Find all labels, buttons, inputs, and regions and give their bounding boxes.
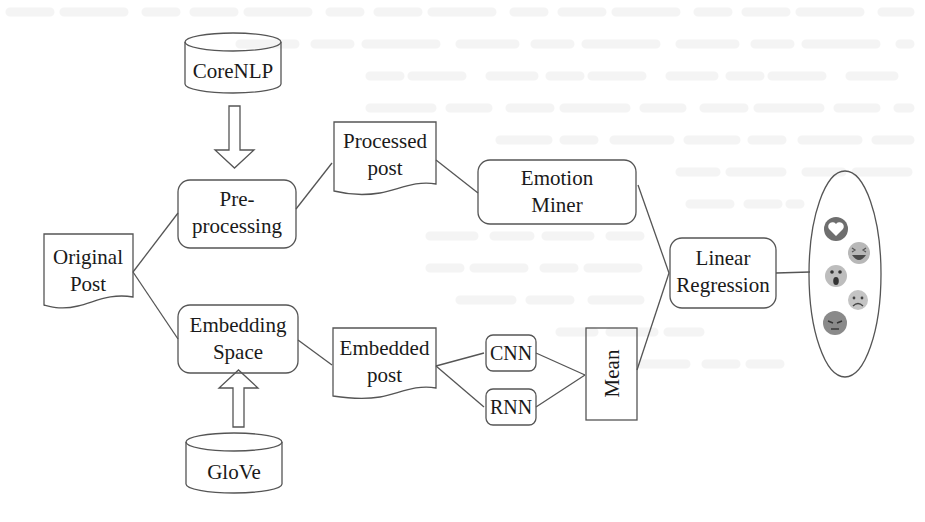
edge-processed-to-emotion: [436, 160, 478, 193]
edge-regression-to-reactions: [776, 272, 810, 273]
diagram-canvas: [0, 0, 925, 522]
preprocessing-label-line2: processing: [178, 214, 296, 239]
edge-rnn-to-mean: [536, 375, 585, 407]
arrow-down-icon: [215, 106, 254, 168]
rnn-label: RNN: [486, 395, 536, 420]
linear-regression-label-line1: Linear: [670, 246, 776, 271]
angry-reaction-icon: [823, 311, 847, 335]
embedding-space-label-line1: Embedding: [178, 313, 298, 338]
haha-reaction-icon: [848, 242, 870, 264]
reaction-icons: [823, 217, 870, 335]
emotion-miner-label-line2: Miner: [478, 193, 636, 218]
embedding-space-label-line2: Space: [178, 340, 298, 365]
preprocessing-label-line1: Pre-: [178, 187, 296, 212]
sad-reaction-icon: [848, 290, 868, 310]
edge-embedded-to-rnn: [436, 366, 484, 407]
linear-regression-label-line2: Regression: [670, 273, 776, 298]
original-post-label-line1: Original: [40, 245, 136, 270]
glove-label: GloVe: [186, 460, 282, 485]
embedded-post-label-line1: Embedded: [333, 336, 436, 361]
edge-emotion-to-regression: [638, 185, 669, 273]
edge-embedding-to-embedded: [298, 340, 332, 365]
background-bleed-through: [10, 12, 910, 364]
edge-original-to-preprocessing: [133, 213, 178, 272]
original-post-label-line2: Post: [40, 272, 136, 297]
edge-original-to-embedding: [133, 272, 178, 339]
wow-reaction-icon: [825, 265, 847, 287]
emotion-miner-label-line1: Emotion: [478, 166, 636, 191]
love-reaction-icon: [824, 217, 848, 241]
edge-mean-to-regression: [637, 273, 669, 370]
processed-post-label-line1: Processed: [334, 129, 436, 154]
edge-embedded-to-cnn: [436, 353, 484, 366]
corenlp-label: CoreNLP: [185, 59, 281, 84]
embedded-post-label-line2: post: [333, 363, 436, 388]
edge-cnn-to-mean: [536, 353, 585, 375]
cnn-label: CNN: [486, 341, 536, 366]
edge-preprocessing-to-processed: [296, 163, 332, 209]
arrow-up-icon: [219, 370, 258, 427]
mean-label: Mean: [600, 332, 625, 416]
processed-post-label-line2: post: [334, 156, 436, 181]
